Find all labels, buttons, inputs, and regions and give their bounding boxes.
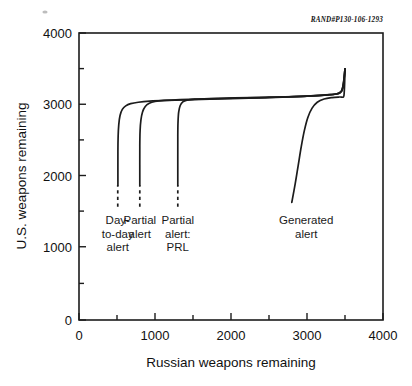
curve-label-generated-alert: Generatedalert <box>279 214 333 240</box>
curve-label-partial-alert: Partialalert <box>123 214 156 240</box>
x-tick-label: 3000 <box>293 328 322 343</box>
plot-frame <box>79 33 383 320</box>
y-tick-label: 4000 <box>43 26 72 41</box>
x-major-ticks <box>79 313 383 320</box>
curve-annotations: Day-to-dayalertPartialalertPartialalert:… <box>102 214 334 253</box>
curve-partial-alert-prl <box>178 69 345 185</box>
y-tick-label: 1000 <box>43 240 72 255</box>
x-tick-label: 2000 <box>217 328 246 343</box>
y-tick-label: 3000 <box>43 97 72 112</box>
data-curves <box>118 69 345 207</box>
document-id-label: RAND#P130-106-1293 <box>310 16 383 24</box>
y-tick-label: 0 <box>65 313 72 328</box>
scan-speck <box>42 11 47 14</box>
curve-label-partial-alert-prl: Partialalert:PRL <box>161 214 194 253</box>
x-tick-label: 0 <box>75 328 82 343</box>
y-tick-label: 2000 <box>43 169 72 184</box>
y-axis-title: U.S. weapons remaining <box>14 102 29 249</box>
x-tick-labels: 0 1000 2000 3000 4000 <box>75 328 397 343</box>
curve-generated-alert <box>292 69 345 202</box>
y-major-ticks <box>79 33 86 320</box>
line-chart: RAND#P130-106-1293 <box>0 0 412 386</box>
x-tick-label: 4000 <box>369 328 398 343</box>
curve-day-to-day-alert <box>118 69 345 185</box>
figure-container: RAND#P130-106-1293 <box>0 0 412 386</box>
x-tick-label: 1000 <box>141 328 170 343</box>
curve-partial-alert <box>140 69 345 185</box>
x-axis-title: Russian weapons remaining <box>146 355 316 370</box>
y-tick-labels: 4000 3000 2000 1000 0 <box>43 26 72 328</box>
